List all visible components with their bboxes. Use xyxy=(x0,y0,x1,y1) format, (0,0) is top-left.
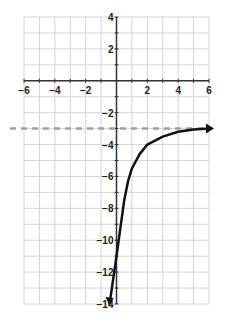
arrow-right-icon xyxy=(206,124,214,134)
y-tick-label: −4 xyxy=(102,140,114,151)
x-tick-label: −6 xyxy=(18,85,30,96)
y-tick-label: −8 xyxy=(102,203,114,214)
x-tick-label: 6 xyxy=(206,85,212,96)
y-tick-label: −12 xyxy=(97,267,114,278)
y-tick-label: −6 xyxy=(102,171,114,182)
graph: −6−4−224642−2−4−6−8−10−12−14 xyxy=(0,0,229,323)
x-tick-label: −2 xyxy=(80,85,92,96)
y-tick-label: 4 xyxy=(108,12,114,23)
y-tick-label: 2 xyxy=(108,44,114,55)
x-tick-label: −4 xyxy=(49,85,61,96)
y-tick-label: −2 xyxy=(102,108,114,119)
x-tick-label: 2 xyxy=(145,85,151,96)
x-tick-label: 4 xyxy=(175,85,181,96)
curve xyxy=(110,129,209,304)
y-tick-label: −10 xyxy=(97,235,114,246)
